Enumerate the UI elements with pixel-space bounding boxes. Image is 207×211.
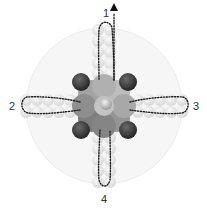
arrow-up-icon — [110, 3, 118, 11]
label-2: 2 — [9, 101, 15, 112]
molecular-diagram — [0, 0, 207, 211]
label-4: 4 — [101, 194, 107, 205]
label-1: 1 — [103, 8, 109, 19]
label-3: 3 — [193, 101, 199, 112]
